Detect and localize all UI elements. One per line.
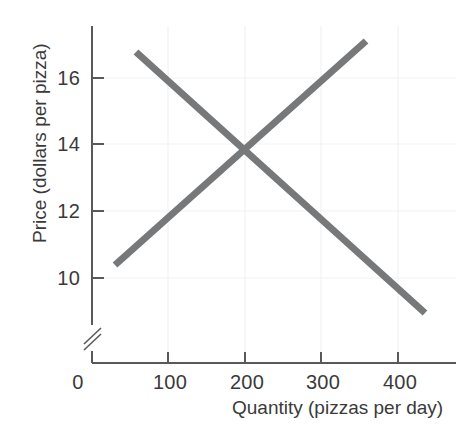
x-axis-ticks: [168, 352, 398, 363]
y-axis-title: Price (dollars per pizza): [30, 43, 49, 243]
x-axis-title: Quantity (pizzas per day): [232, 398, 443, 417]
supply-demand-chart: 16 14 12 10 0 100 200 300 400 Price (dol…: [0, 0, 456, 426]
xtick-label-200: 200: [230, 372, 264, 392]
xtick-label-400: 400: [383, 372, 417, 392]
demand-curve: [136, 52, 425, 313]
xtick-label-100: 100: [153, 372, 187, 392]
gridlines-vertical: [168, 26, 398, 363]
y-axis-break-icon: [83, 325, 102, 351]
xtick-label-300: 300: [306, 372, 340, 392]
axes: [92, 26, 456, 363]
supply-curve: [115, 41, 366, 265]
xtick-label-0: 0: [72, 372, 83, 392]
y-axis-ticks: [92, 78, 104, 278]
ytick-label-10: 10: [40, 268, 80, 288]
